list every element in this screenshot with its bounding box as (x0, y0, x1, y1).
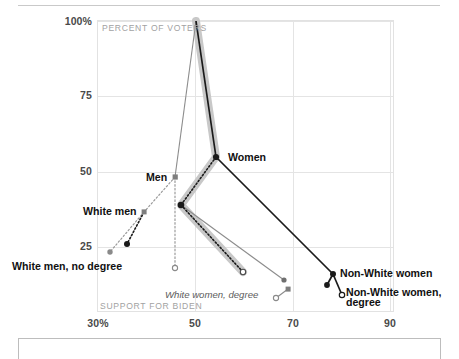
marker-white-men-open (172, 265, 177, 270)
edge-all-to-women (196, 21, 216, 157)
marker-white-women-no-degree (286, 287, 291, 292)
x-axis-caption: SUPPORT FOR BIDEN (100, 301, 202, 311)
annotation-men: Men (146, 172, 167, 184)
marker-white-women (178, 202, 185, 209)
annotation-non-white-women-degree-line2: degree (346, 297, 381, 309)
marker-women (213, 154, 219, 160)
annotation-white-men-no-degree: White men, no degree (12, 261, 122, 273)
xtick-90: 90 (360, 317, 420, 329)
marker-white-women-other (273, 295, 278, 300)
ytick-100: 100% (46, 15, 92, 27)
xtick-50: 50 (165, 317, 225, 329)
ytick-75: 75 (46, 89, 92, 101)
marker-white-men-degree (124, 241, 130, 247)
marker-white-women-cluster (281, 277, 286, 282)
ytick-50: 50 (46, 165, 92, 177)
annotation-women: Women (228, 152, 266, 164)
marker-non-white-women (330, 271, 336, 277)
edge-all-to-men (175, 21, 196, 177)
y-axis-caption: PERCENT OF VOTERS (102, 23, 207, 33)
annotation-non-white-women: Non-White women (340, 268, 432, 280)
xtick-30: 30% (68, 317, 128, 329)
xtick-70: 70 (263, 317, 323, 329)
annotation-white-women-degree: White women, degree (165, 289, 258, 301)
edge-women-to-whitewomen (181, 157, 216, 205)
ytick-25: 25 (46, 240, 92, 252)
marker-non-white-women-degree (339, 292, 344, 297)
marker-white-women-degree (240, 269, 245, 274)
edge-whitewomen-to-nodegree (181, 205, 284, 280)
marker-non-white-women-filled (324, 282, 330, 288)
bottom-panel (18, 338, 441, 359)
marker-white-men-no-degree (107, 249, 112, 254)
marker-men (173, 174, 178, 179)
highlight-ribbon (181, 21, 243, 272)
grey-dotted-edges (110, 177, 175, 268)
markers (107, 154, 344, 301)
marker-white-men (142, 209, 147, 214)
annotation-white-men: White men (83, 206, 137, 218)
